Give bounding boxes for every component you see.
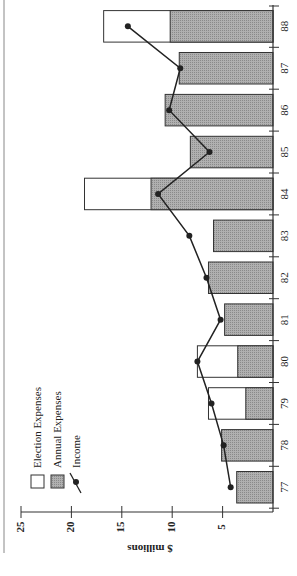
income-marker (206, 149, 212, 155)
annual-bar-86 (165, 94, 273, 126)
legend-label-election: Election Expenses (31, 387, 43, 468)
income-marker (194, 359, 200, 365)
legend-swatch-income-dot (73, 479, 79, 485)
value-tick-label: 20 (64, 521, 76, 533)
category-label: 88 (278, 20, 290, 32)
value-tick-label: 5 (215, 524, 227, 530)
category-label: 86 (278, 104, 290, 116)
category-label: 80 (278, 356, 290, 368)
category-label: 82 (278, 272, 290, 283)
category-label: 84 (278, 188, 290, 200)
annual-bar-79 (246, 388, 273, 420)
category-label: 79 (278, 397, 290, 409)
value-tick-label: 25 (14, 521, 26, 533)
category-label: 77 (278, 481, 290, 493)
chart: 777879808182838485868788510152025 Electi… (0, 0, 297, 576)
value-tick-label: 10 (165, 521, 177, 533)
income-marker (166, 107, 172, 113)
value-tick-label: 15 (114, 521, 126, 533)
income-marker (218, 317, 224, 323)
income-marker (221, 442, 227, 448)
legend: Election ExpensesAnnual ExpensesIncome (31, 387, 82, 493)
income-marker (228, 484, 234, 490)
legend-swatch-annual (51, 475, 64, 488)
category-label: 85 (278, 146, 290, 158)
category-label: 83 (278, 230, 290, 242)
category-label: 81 (278, 314, 290, 325)
income-line (125, 23, 234, 490)
annual-bar-87 (179, 53, 273, 85)
category-label: 78 (278, 439, 290, 451)
income-marker (186, 233, 192, 239)
income-marker (177, 65, 183, 71)
annual-bar-83 (214, 220, 273, 252)
legend-label-income: Income (70, 435, 82, 468)
category-label: 87 (278, 62, 290, 74)
legend-label-annual: Annual Expenses (51, 391, 63, 468)
income-marker (125, 23, 131, 29)
income-marker (155, 191, 161, 197)
legend-swatch-election (31, 475, 44, 488)
annual-bar-81 (225, 304, 273, 336)
annual-bar-80 (238, 346, 273, 378)
annual-bar-88 (170, 11, 273, 42)
axis-title: $ millions (127, 543, 173, 555)
annual-bar-84 (151, 178, 273, 210)
income-marker (203, 275, 209, 281)
annual-bar-82 (208, 262, 273, 294)
bars-group (85, 11, 273, 503)
annual-bar-78 (222, 430, 273, 462)
annual-bar-77 (237, 472, 273, 504)
annual-bar-85 (190, 136, 273, 168)
income-marker (209, 400, 215, 406)
